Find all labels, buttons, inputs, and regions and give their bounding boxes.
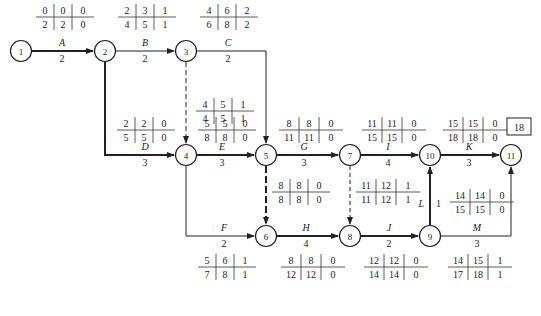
table-cell: 0 xyxy=(500,190,505,201)
table-cell: 0 xyxy=(412,118,417,129)
table-cell: 6 xyxy=(223,255,228,266)
table-cell: 0 xyxy=(162,118,167,129)
label-J: J xyxy=(387,222,392,233)
table-cell: 14 xyxy=(475,190,485,201)
svg-text:7: 7 xyxy=(348,151,353,161)
table-cell: 2 xyxy=(245,5,250,16)
table-cell: 5 xyxy=(142,132,147,143)
table-cell: 0 xyxy=(243,132,248,143)
table-cell: 1 xyxy=(163,19,168,30)
table-cell: 18 xyxy=(468,132,478,143)
table-cell: 8 xyxy=(289,255,294,266)
table-cell: 0 xyxy=(243,118,248,129)
node-2: 2 xyxy=(95,41,116,62)
table-cell: 15 xyxy=(468,118,478,129)
node-9: 9 xyxy=(420,226,441,247)
table-cell: 0 xyxy=(329,132,334,143)
table-cell: 0 xyxy=(61,5,66,16)
duration-D: 3 xyxy=(143,157,148,168)
table-cell: 0 xyxy=(162,132,167,143)
node-4: 4 xyxy=(176,145,197,166)
table-cell: 2 xyxy=(142,118,147,129)
table-cell: 18 xyxy=(473,269,483,280)
table-cell: 1 xyxy=(406,194,411,205)
time-table-H: 88012120 xyxy=(281,254,345,280)
time-table-D: 220550 xyxy=(117,117,175,143)
table-cell: 6 xyxy=(207,19,212,30)
table-cell: 12 xyxy=(369,255,379,266)
table-cell: 5 xyxy=(223,118,228,129)
label-A: A xyxy=(58,37,66,48)
label-F: F xyxy=(220,222,228,233)
time-table-F: 561781 xyxy=(198,254,256,280)
table-cell: 1 xyxy=(243,255,248,266)
table-cell: 0 xyxy=(43,5,48,16)
table-cell: 8 xyxy=(223,132,228,143)
table-cell: 12 xyxy=(306,269,316,280)
table-cell: 1 xyxy=(406,180,411,191)
table-cell: 2 xyxy=(124,118,129,129)
table-cell: 14 xyxy=(453,255,463,266)
label-B: B xyxy=(142,37,148,48)
table-cell: 8 xyxy=(287,118,292,129)
table-cell: 8 xyxy=(279,180,284,191)
time-table-K: 1515018180 xyxy=(443,117,507,143)
table-cell: 14 xyxy=(455,190,465,201)
table-cell: 11 xyxy=(361,180,371,191)
network-diagram: A 2 B 2 C 2 D 3 E 3 F 2 G 3 H 4 I 4 J 2 … xyxy=(0,0,541,316)
table-cell: 3 xyxy=(143,5,148,16)
table-cell: 15 xyxy=(367,132,377,143)
table-cell: 0 xyxy=(81,5,86,16)
table-cell: 0 xyxy=(493,118,498,129)
table-cell: 8 xyxy=(225,19,230,30)
table-cell: 15 xyxy=(448,118,458,129)
table-cell: 0 xyxy=(414,269,419,280)
table-cell: 4 xyxy=(125,19,130,30)
duration-F: 2 xyxy=(222,238,227,249)
table-cell: 1 xyxy=(243,269,248,280)
table-cell: 0 xyxy=(414,255,419,266)
table-cell: 0 xyxy=(500,204,505,215)
duration-K: 3 xyxy=(467,157,472,168)
table-cell: 18 xyxy=(448,132,458,143)
svg-text:1: 1 xyxy=(19,47,24,57)
table-cell: 14 xyxy=(369,269,379,280)
table-cell: 0 xyxy=(412,132,417,143)
label-L: L xyxy=(417,198,424,209)
table-cell: 8 xyxy=(297,194,302,205)
table-cell: 8 xyxy=(307,118,312,129)
node-7: 7 xyxy=(340,145,361,166)
label-M: M xyxy=(472,222,482,233)
table-cell: 0 xyxy=(81,19,86,30)
table-cell: 0 xyxy=(331,269,336,280)
label-C: C xyxy=(225,37,232,48)
duration-B: 2 xyxy=(143,53,148,64)
table-cell: 4 xyxy=(203,99,208,110)
table-cell: 12 xyxy=(381,194,391,205)
svg-text:4: 4 xyxy=(184,151,189,161)
time-table-I: 1111015150 xyxy=(362,117,426,143)
label-H: H xyxy=(301,222,310,233)
table-cell: 11 xyxy=(361,194,371,205)
table-cell: 8 xyxy=(309,255,314,266)
time-table-J: 1212014140 xyxy=(364,254,428,280)
table-cell: 2 xyxy=(245,19,250,30)
svg-text:5: 5 xyxy=(264,151,269,161)
duration-L: 1 xyxy=(436,198,441,209)
total-duration-value: 18 xyxy=(514,122,524,133)
table-cell: 14 xyxy=(389,269,399,280)
node-3: 3 xyxy=(176,41,197,62)
duration-I: 4 xyxy=(386,157,391,168)
table-cell: 17 xyxy=(453,269,463,280)
duration-G: 3 xyxy=(302,157,307,168)
table-cell: 1 xyxy=(498,269,503,280)
node-5: 5 xyxy=(256,145,277,166)
duration-C: 2 xyxy=(226,53,231,64)
duration-E: 3 xyxy=(220,157,225,168)
table-cell: 1 xyxy=(241,99,246,110)
duration-H: 4 xyxy=(304,238,309,249)
svg-text:3: 3 xyxy=(184,47,189,57)
table-cell: 7 xyxy=(205,269,210,280)
table-cell: 5 xyxy=(143,19,148,30)
table-cell: 0 xyxy=(317,180,322,191)
